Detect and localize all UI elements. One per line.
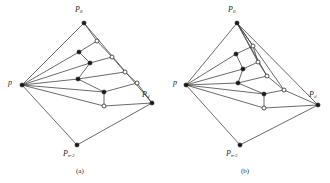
panel-b-vertex-p0 <box>235 21 239 25</box>
label-subscript: d <box>314 94 316 99</box>
panel-b-edge-p-p0 <box>186 23 237 85</box>
panel-b-label-pn2-bottom: Pn-2 <box>226 150 238 159</box>
panel-b-label-pd-right: Pd <box>309 91 316 100</box>
panel-b-vertex-j2 <box>234 52 238 56</box>
panel-b-edge-p0-j7 <box>237 23 284 90</box>
panel-b-vertex-pd <box>316 103 320 107</box>
panel-b-edge-p-j8 <box>186 85 264 94</box>
panel-b-edge-j5-j6 <box>238 76 267 83</box>
figure-root: pP0PdPn-2(a)pP0PdPn-2(b) <box>0 0 330 183</box>
panel-b-label-p0-top: P0 <box>228 6 235 15</box>
panel-b-caption: (b) <box>241 167 249 175</box>
panel-b-label-p-left: p <box>173 79 177 87</box>
panel-b-edge-j9-pd <box>264 105 318 108</box>
panel-b-edge-p-j9 <box>186 85 264 108</box>
panel-b-vertex-j1 <box>251 44 255 48</box>
panel-b-vertex-p <box>184 83 188 87</box>
panel-b-edge-j3-j4 <box>243 62 258 69</box>
panel-b-vertex-j4 <box>241 67 245 71</box>
panel-b-edge-p-j2 <box>186 54 236 85</box>
label-subscript: 0 <box>233 9 235 14</box>
panel-b-edge-p0-pd <box>237 23 318 105</box>
panel-b-graph <box>0 0 330 183</box>
panel-b-vertex-j9 <box>262 106 266 110</box>
panel-b-edge-p-pn2 <box>186 85 240 145</box>
panel-b-vertex-j7 <box>282 88 286 92</box>
panel-b-edge-j7-j8 <box>264 90 284 94</box>
label-subscript: n-2 <box>231 153 238 158</box>
panel-b-vertex-j8 <box>262 92 266 96</box>
panel-b-edge-j2-j4 <box>236 54 243 69</box>
panel-b-edge-p-j6 <box>186 83 238 85</box>
panel-b-vertex-j3 <box>256 60 260 64</box>
panel-b-edge-j1-j2 <box>236 46 253 54</box>
panel-b-edge-p-j4 <box>186 69 243 85</box>
panel-b-vertex-pn2 <box>238 143 242 147</box>
panel-b-vertex-j5 <box>265 74 269 78</box>
panel-b-vertex-j6 <box>236 81 240 85</box>
panel-b-edge-pn2-pd <box>240 105 318 145</box>
label-base: p <box>173 78 177 87</box>
